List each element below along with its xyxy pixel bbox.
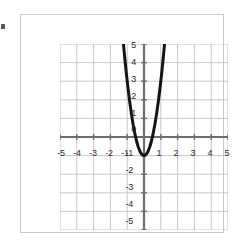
x-tick-label--2: -2 (101, 149, 117, 158)
grid-and-curve-svg (60, 44, 228, 230)
x-tick-label-1: 1 (151, 149, 167, 158)
y-tick-label-0: 0 (122, 125, 136, 134)
x-tick-label-4: 4 (202, 149, 218, 158)
x-tick-label-5: 5 (219, 149, 234, 158)
figure-frame: -5 -4 -3 -2 -1 1 2 3 4 5 5 4 3 2 1 0 -1 … (20, 14, 224, 233)
x-tick-label--4: -4 (69, 149, 85, 158)
y-tick-label-5: 5 (122, 41, 136, 50)
x-tick-label-3: 3 (185, 149, 201, 158)
y-tick-label-2: 2 (122, 92, 136, 101)
x-tick-label--3: -3 (85, 149, 101, 158)
y-tick-label--4: -4 (119, 200, 133, 209)
y-tick-label--5: -5 (119, 217, 133, 226)
x-tick-label-2: 2 (168, 149, 184, 158)
y-tick-label--3: -3 (119, 183, 133, 192)
coordinate-plane: -5 -4 -3 -2 -1 1 2 3 4 5 5 4 3 2 1 0 -1 … (60, 44, 228, 230)
scan-artifact-mark (1, 24, 5, 29)
x-tick-label--5: -5 (53, 149, 69, 158)
y-tick-label-3: 3 (122, 75, 136, 84)
y-tick-label-1: 1 (122, 109, 136, 118)
y-tick-label-4: 4 (122, 58, 136, 67)
y-tick-label--2: -2 (119, 166, 133, 175)
figure-page: -5 -4 -3 -2 -1 1 2 3 4 5 5 4 3 2 1 0 -1 … (0, 0, 234, 245)
y-tick-label--1: -1 (119, 149, 133, 158)
